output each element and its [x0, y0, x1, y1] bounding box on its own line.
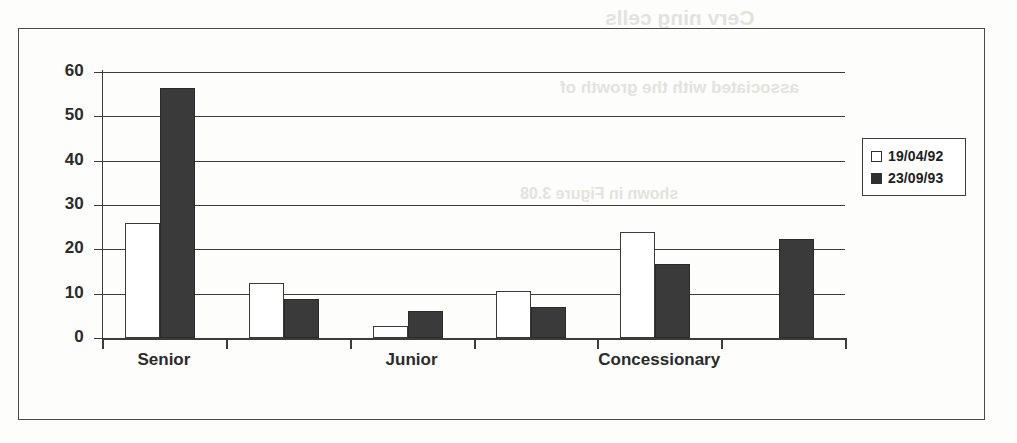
legend-entry: 19/04/92 — [871, 145, 965, 167]
x-tick-label: Concessionary — [597, 350, 721, 370]
bar — [779, 239, 814, 338]
bar — [284, 299, 319, 338]
bar — [655, 264, 690, 338]
x-tick — [597, 338, 599, 349]
bar — [160, 88, 195, 338]
bar — [373, 326, 408, 338]
bar — [125, 223, 160, 338]
legend-label: 23/09/93 — [888, 170, 943, 186]
y-tick-label: 0 — [38, 327, 84, 347]
bar — [249, 283, 284, 338]
legend-label: 19/04/92 — [888, 148, 943, 164]
plot-area — [102, 72, 845, 338]
x-tick-label: Junior — [350, 350, 474, 370]
bar — [620, 232, 655, 338]
legend-entry: 23/09/93 — [871, 167, 965, 189]
bar — [496, 291, 531, 338]
x-tick — [474, 338, 476, 349]
x-tick-label: Senior — [102, 350, 226, 370]
y-tick-label: 40 — [38, 150, 84, 170]
bar — [531, 307, 566, 338]
x-tick — [102, 338, 104, 349]
legend-swatch-icon — [871, 173, 882, 184]
x-tick — [226, 338, 228, 349]
y-tick-label: 20 — [38, 238, 84, 258]
chart-legend: 19/04/92 23/09/93 — [862, 138, 966, 196]
x-tick — [845, 338, 847, 349]
y-tick-label: 10 — [38, 283, 84, 303]
y-tick-label: 30 — [38, 194, 84, 214]
x-tick — [721, 338, 723, 349]
y-tick-label: 60 — [38, 61, 84, 81]
x-tick — [350, 338, 352, 349]
legend-swatch-icon — [871, 151, 882, 162]
y-tick-label: 50 — [38, 105, 84, 125]
bar — [408, 311, 443, 338]
